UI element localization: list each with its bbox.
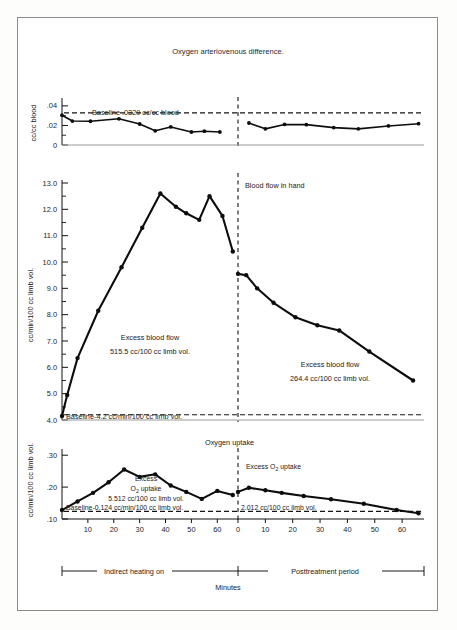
y-tick-label-oxygen-arteriovenous-difference-0: 0 [53,141,57,150]
bottom-excess-left-line2: O2 uptake [131,485,162,494]
y-tick-label-oxygen-arteriovenous-difference-1: .02 [47,121,57,130]
y-tick-label-blood-flow-in-hand-1: 5.0 [47,389,57,398]
period-label-left: Indirect heating on [104,567,164,576]
x-left-40-label: 40 [161,525,169,534]
data-point-oxygen-uptake-posttreatment-period-4 [301,494,305,498]
data-point-blood-flow-in-hand-indirect-heating-on-8 [184,211,188,215]
data-point-oxygen-uptake-indirect-heating-on-2 [91,491,95,495]
bottom-excess-right-line2: 2.012 cc/100 cc limb vol. [241,504,317,511]
middle-excess-left-line1: Excess blood flow [121,333,180,342]
x-left-30-label: 30 [136,525,144,534]
figure-title: Oxygen arteriovenous difference. [172,47,284,56]
y-tick-label-oxygen-uptake-1: .20 [47,483,57,492]
data-point-blood-flow-in-hand-posttreatment-period-3 [271,301,275,305]
data-point-oxygen-arteriovenous-difference-indirect-heating-on-2 [89,119,93,123]
y-tick-label-oxygen-uptake-0: .10 [47,515,57,524]
data-point-oxygen-uptake-indirect-heating-on-10 [215,489,219,493]
data-point-oxygen-uptake-posttreatment-period-3 [280,491,284,495]
x-right-30-label: 30 [316,525,324,534]
data-point-oxygen-uptake-indirect-heating-on-4 [122,467,126,471]
y-tick-label-blood-flow-in-hand-0: 4.0 [47,416,57,425]
data-point-blood-flow-in-hand-posttreatment-period-2 [255,286,259,290]
x-axis-title: Minutes [215,583,241,592]
data-point-blood-flow-in-hand-indirect-heating-on-11 [220,214,224,218]
y-tick-label-blood-flow-in-hand-3: 7.0 [47,337,57,346]
data-point-oxygen-uptake-posttreatment-period-7 [394,508,398,512]
data-point-blood-flow-in-hand-indirect-heating-on-7 [174,205,178,209]
y-axis-title-middle: cc/min/100 cc limb vol. [26,268,35,342]
data-point-blood-flow-in-hand-posttreatment-period-6 [337,328,341,332]
data-point-blood-flow-in-hand-indirect-heating-on-10 [207,194,211,198]
data-point-oxygen-arteriovenous-difference-indirect-heating-on-8 [202,129,206,133]
middle-excess-left-line2: 515.5 cc/100 cc limb vol. [110,347,190,356]
x-right-60-label: 60 [398,525,406,534]
data-point-oxygen-arteriovenous-difference-indirect-heating-on-6 [169,125,173,129]
y-tick-label-blood-flow-in-hand-8: 12.0 [43,205,57,214]
y-tick-label-oxygen-arteriovenous-difference-2: .04 [47,101,57,110]
figure-root: Oxygen arteriovenous difference.0.02.044… [0,0,457,630]
bottom-excess-right-line1: Excess O2 uptake [246,463,301,472]
data-point-oxygen-arteriovenous-difference-posttreatment-period-4 [332,126,336,130]
x-right-10-label: 10 [261,525,269,534]
data-point-oxygen-uptake-posttreatment-period-1 [247,486,251,490]
data-point-oxygen-arteriovenous-difference-indirect-heating-on-9 [218,130,222,134]
data-point-blood-flow-in-hand-posttreatment-period-5 [315,323,319,327]
x-right-40-label: 40 [343,525,351,534]
data-point-oxygen-uptake-posttreatment-period-2 [263,488,267,492]
data-point-oxygen-arteriovenous-difference-posttreatment-period-7 [417,122,421,126]
y-tick-label-blood-flow-in-hand-7: 11.0 [43,231,57,240]
data-point-blood-flow-in-hand-posttreatment-period-0 [236,272,240,276]
x-left-10-label: 10 [84,525,92,534]
chart-canvas: Oxygen arteriovenous difference.0.02.044… [0,0,457,630]
bottom-excess-left-line1: Excess [135,475,158,482]
data-point-oxygen-uptake-indirect-heating-on-11 [231,493,235,497]
data-point-oxygen-uptake-posttreatment-period-5 [329,497,333,501]
bottom-excess-left-line3: 5.512 cc/100 cc limb vol. [108,495,184,502]
data-point-blood-flow-in-hand-indirect-heating-on-0 [60,414,64,418]
data-point-oxygen-uptake-posttreatment-period-0 [236,490,240,494]
y-axis-title-bottom: cc/min/100 cc limb vol. [26,443,35,517]
data-point-oxygen-arteriovenous-difference-posttreatment-period-5 [356,127,360,131]
data-point-oxygen-arteriovenous-difference-posttreatment-period-0 [247,121,251,125]
y-tick-label-blood-flow-in-hand-9: 13.0 [43,179,57,188]
data-point-blood-flow-in-hand-indirect-heating-on-9 [197,218,201,222]
data-point-oxygen-arteriovenous-difference-posttreatment-period-3 [304,123,308,127]
x-right-0-label: 0 [236,525,240,534]
y-tick-label-blood-flow-in-hand-5: 9.0 [47,284,57,293]
data-point-oxygen-uptake-posttreatment-period-6 [362,501,366,505]
data-point-oxygen-uptake-indirect-heating-on-3 [106,480,110,484]
y-tick-label-blood-flow-in-hand-2: 6.0 [47,363,57,372]
data-point-oxygen-uptake-indirect-heating-on-9 [200,497,204,501]
x-right-50-label: 50 [371,525,379,534]
y-tick-label-blood-flow-in-hand-4: 8.0 [47,310,57,319]
middle-baseline-label: Baseline-4.2 cc/min/100 cc limb vol. [66,412,182,421]
data-point-oxygen-arteriovenous-difference-posttreatment-period-2 [283,123,287,127]
data-point-oxygen-arteriovenous-difference-indirect-heating-on-1 [70,119,74,123]
data-point-oxygen-arteriovenous-difference-indirect-heating-on-7 [190,130,194,134]
x-right-20-label: 20 [289,525,297,534]
data-point-blood-flow-in-hand-indirect-heating-on-5 [140,226,144,230]
data-point-oxygen-arteriovenous-difference-indirect-heating-on-3 [117,117,121,121]
middle-series-label: Blood flow in hand [245,181,305,190]
bottom-series-label: Oxygen uptake [205,438,254,447]
middle-excess-right-line1: Excess blood flow [301,360,360,369]
data-point-oxygen-uptake-indirect-heating-on-8 [184,490,188,494]
top-baseline-label: Baseline .0329 cc/cc blood [92,108,179,117]
data-point-blood-flow-in-hand-indirect-heating-on-12 [231,249,235,253]
y-tick-label-oxygen-uptake-2: .30 [47,451,57,460]
bottom-baseline-label: Baseline-0.124 cc/min/100 cc limb vol. [66,504,183,511]
series-line-blood-flow-in-hand-indirect-heating-on [62,194,233,417]
y-axis-title-top: cc/cc blood [29,105,38,142]
data-point-blood-flow-in-hand-indirect-heating-on-4 [119,265,123,269]
data-point-blood-flow-in-hand-posttreatment-period-1 [244,273,248,277]
period-label-right: Posttreatment period [291,567,359,576]
data-point-oxygen-uptake-indirect-heating-on-0 [60,508,64,512]
x-left-60-label: 60 [213,525,221,534]
data-point-oxygen-arteriovenous-difference-posttreatment-period-6 [387,124,391,128]
data-point-oxygen-uptake-indirect-heating-on-7 [169,483,173,487]
middle-excess-right-line2: 264.4 cc/100 cc limb vol. [290,374,370,383]
x-left-20-label: 20 [110,525,118,534]
data-point-oxygen-uptake-indirect-heating-on-1 [75,499,79,503]
x-left-50-label: 50 [187,525,195,534]
data-point-oxygen-arteriovenous-difference-indirect-heating-on-5 [153,129,157,133]
